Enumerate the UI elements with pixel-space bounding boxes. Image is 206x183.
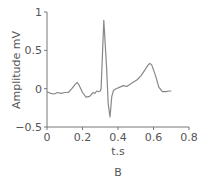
y-tick-label: 0 <box>35 83 42 96</box>
x-axis-label: t.s <box>111 145 125 158</box>
x-tick-label: 0.4 <box>109 131 127 144</box>
x-tick-label: 0.8 <box>180 131 198 144</box>
x-tick-label: 0 <box>44 131 51 144</box>
x-tick-label: 0.6 <box>145 131 163 144</box>
ecg-chart: −0.500.5100.20.40.60.8 Amplitude mV t.s … <box>0 0 206 183</box>
y-axis-label: Amplitude mV <box>10 30 23 109</box>
y-tick-label: 0.5 <box>25 44 43 57</box>
ecg-trace <box>47 20 171 117</box>
panel-label: B <box>114 166 122 179</box>
x-tick-label: 0.2 <box>74 131 92 144</box>
y-tick-label: 1 <box>35 6 42 19</box>
y-tick-label: −0.5 <box>15 121 42 134</box>
